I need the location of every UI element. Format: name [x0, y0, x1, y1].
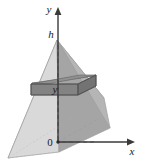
y-axis-arrowhead: [55, 7, 62, 15]
cross-section-label: y: [52, 83, 58, 95]
x-axis-label: x: [129, 145, 135, 157]
pyramid-diagram-svg: y h y 0 x: [0, 0, 143, 168]
y-axis-label: y: [46, 3, 52, 15]
pyramid-figure: y h y 0 x: [0, 0, 143, 168]
origin-point: [56, 140, 59, 143]
origin-label: 0: [47, 136, 53, 148]
height-label: h: [48, 28, 54, 40]
